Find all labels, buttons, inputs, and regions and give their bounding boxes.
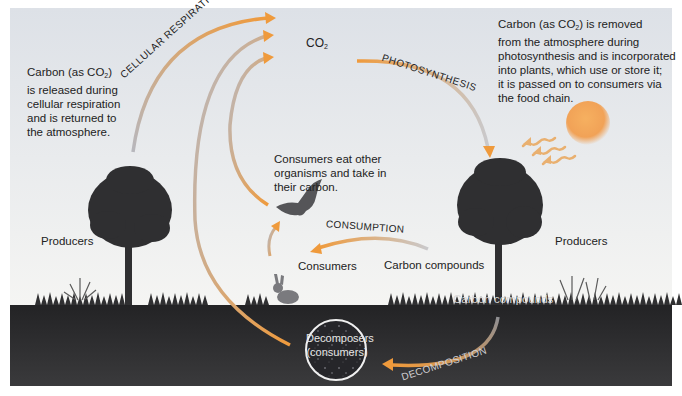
co2-label: CO2 [306, 36, 328, 50]
subscript: 2 [324, 43, 328, 50]
note-text: Carbon (as CO [27, 66, 104, 78]
note-text: organisms and take in [274, 166, 394, 180]
sun-icon [566, 101, 610, 145]
decomposers-label: Decomposers (consumers) [306, 331, 368, 359]
decomposers-text: Decomposers [306, 331, 368, 345]
consumers-note: Consumers eat other organisms and take i… [274, 152, 394, 194]
co2-text: CO [306, 36, 324, 50]
note-text: is released during [27, 83, 137, 97]
carbon-cycle-diagram: Carbon (as CO2) is released during cellu… [0, 0, 682, 396]
note-text: cellular respiration [27, 97, 137, 111]
decomposers-text: (consumers) [306, 345, 368, 359]
note-text: their carbon. [274, 180, 394, 194]
note-text: ) is removed [579, 18, 642, 30]
producers-left-label: Producers [41, 235, 93, 247]
carbon-compounds-surface-label: Carbon compounds [384, 259, 484, 271]
photosynthesis-note: Carbon (as CO2) is removed from the atmo… [498, 17, 678, 105]
note-text: photosynthesis and is incorporated [498, 49, 678, 63]
producers-right-label: Producers [555, 235, 607, 247]
note-text: Carbon (as CO [498, 18, 575, 30]
note-text: into plants, which use or store it; [498, 63, 678, 77]
note-text: the atmosphere. [27, 125, 137, 139]
carbon-compounds-soil-label: Carbon compounds [453, 293, 553, 305]
respiration-note: Carbon (as CO2) is released during cellu… [27, 65, 137, 139]
note-text: from the atmosphere during [498, 35, 678, 49]
note-text: the food chain. [498, 91, 678, 105]
note-text: and is returned to [27, 111, 137, 125]
consumers-label: Consumers [298, 260, 357, 272]
note-text: ) [108, 66, 112, 78]
note-text: Consumers eat other [274, 152, 394, 166]
note-text: it is passed on to consumers via [498, 77, 678, 91]
